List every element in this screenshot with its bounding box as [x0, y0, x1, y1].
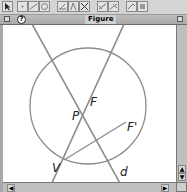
point-label-V: V [52, 162, 60, 174]
zoom-box[interactable] [177, 16, 183, 22]
scroll-up-arrow[interactable]: ▲ [178, 165, 186, 173]
measure-icon [127, 2, 136, 11]
point-icon [18, 2, 27, 11]
construct-tool-2-button[interactable] [68, 1, 79, 12]
construct-tool-3-button[interactable] [79, 1, 90, 12]
close-box[interactable] [4, 16, 10, 22]
scroll-right-arrow[interactable]: ▶ [161, 184, 169, 192]
angle-icon [69, 2, 78, 11]
point-label-P: P [72, 110, 79, 122]
segment-V-Fprime[interactable] [64, 122, 126, 160]
arrow-pointer-icon [3, 2, 12, 11]
point-tool-button[interactable] [17, 1, 28, 12]
rotate-icon [109, 2, 118, 11]
display-icon [138, 2, 147, 11]
scroll-left-arrow[interactable]: ◀ [7, 184, 15, 192]
measure-tool-1-button[interactable] [126, 1, 137, 12]
horizontal-scrollbar[interactable]: ◀ ▶ [3, 182, 176, 192]
line-tool-button[interactable] [28, 1, 39, 12]
window-title: Figure [85, 15, 116, 24]
construct-tool-1-button[interactable] [57, 1, 68, 12]
transform-tool-2-button[interactable] [108, 1, 119, 12]
window-titlebar[interactable]: ? Figure [0, 15, 187, 25]
resize-grow-box[interactable] [176, 182, 187, 192]
pointer-tool-button[interactable] [2, 1, 13, 12]
measure-tool-2-button[interactable] [137, 1, 148, 12]
intersection-icon [80, 2, 89, 11]
circle[interactable] [30, 48, 146, 164]
figure-canvas[interactable]: P F F' V d [3, 25, 176, 182]
circle-tool-button[interactable] [39, 1, 50, 12]
reflect-icon [98, 2, 107, 11]
circle-icon [40, 2, 49, 11]
toolbar [0, 0, 187, 15]
line-label-d: d [120, 166, 128, 178]
vertical-scrollbar[interactable]: ▲ ▼ [176, 25, 187, 182]
help-icon[interactable]: ? [17, 15, 26, 24]
scroll-down-arrow[interactable]: ▼ [178, 173, 186, 181]
transform-tool-1-button[interactable] [97, 1, 108, 12]
point-label-F-prime: F' [127, 121, 137, 133]
point-label-F: F [90, 96, 97, 108]
perpendicular-icon [58, 2, 67, 11]
line-icon [29, 2, 38, 11]
